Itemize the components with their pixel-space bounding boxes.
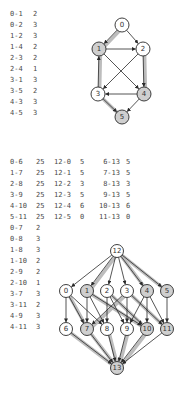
graph-node-1: 1 xyxy=(81,285,94,298)
node-label: 1 xyxy=(85,287,89,295)
node-label: 3 xyxy=(125,287,129,295)
edge-arrow-1-4 xyxy=(104,54,139,89)
node-label: 4 xyxy=(142,90,147,98)
node-label: 9 xyxy=(125,325,129,333)
graph-node-4: 4 xyxy=(137,87,151,101)
node-label: 2 xyxy=(105,287,109,295)
edge-arrow-2-3 xyxy=(103,54,138,89)
node-label: 12 xyxy=(113,247,122,255)
graph-diagrams: 012345 120123456789101113 xyxy=(0,0,180,395)
graph-node-2: 2 xyxy=(136,42,150,56)
graph-node-6: 6 xyxy=(60,323,73,336)
graph-node-2: 2 xyxy=(101,285,114,298)
graph-node-0: 0 xyxy=(60,285,73,298)
node-label: 0 xyxy=(120,21,124,29)
graph-node-11: 11 xyxy=(161,323,174,336)
graph-node-4: 4 xyxy=(141,285,154,298)
node-label: 8 xyxy=(105,325,109,333)
graph-node-7: 7 xyxy=(81,323,94,336)
graph-node-5: 5 xyxy=(161,285,174,298)
node-label: 5 xyxy=(165,287,169,295)
graph-node-8: 8 xyxy=(101,323,114,336)
graph-node-13: 13 xyxy=(111,362,124,375)
node-label: 6 xyxy=(64,325,69,333)
edge-arrow-6-13 xyxy=(71,333,111,364)
graph-node-9: 9 xyxy=(121,323,134,336)
graph-node-12: 12 xyxy=(111,245,124,258)
edge-arrow-3-5 xyxy=(103,99,117,112)
node-label: 3 xyxy=(96,90,100,98)
bottom-flow-graph: 120123456789101113 xyxy=(60,245,174,375)
node-label: 5 xyxy=(120,113,124,121)
edge-arrow-0-2 xyxy=(127,30,138,43)
node-label: 10 xyxy=(143,325,152,333)
node-label: 0 xyxy=(64,287,68,295)
graph-node-10: 10 xyxy=(141,323,154,336)
graph-node-3: 3 xyxy=(121,285,134,298)
node-label: 11 xyxy=(163,325,172,333)
graph-node-1: 1 xyxy=(92,42,106,56)
node-label: 1 xyxy=(97,45,101,53)
node-label: 2 xyxy=(141,45,145,53)
top-flow-graph: 012345 xyxy=(91,18,151,124)
graph-node-5: 5 xyxy=(115,110,129,124)
graph-node-0: 0 xyxy=(115,18,129,32)
node-label: 7 xyxy=(85,325,89,333)
graph-node-3: 3 xyxy=(91,87,105,101)
node-label: 13 xyxy=(113,364,122,372)
edge-arrow-4-5 xyxy=(127,99,139,112)
node-label: 4 xyxy=(145,287,150,295)
